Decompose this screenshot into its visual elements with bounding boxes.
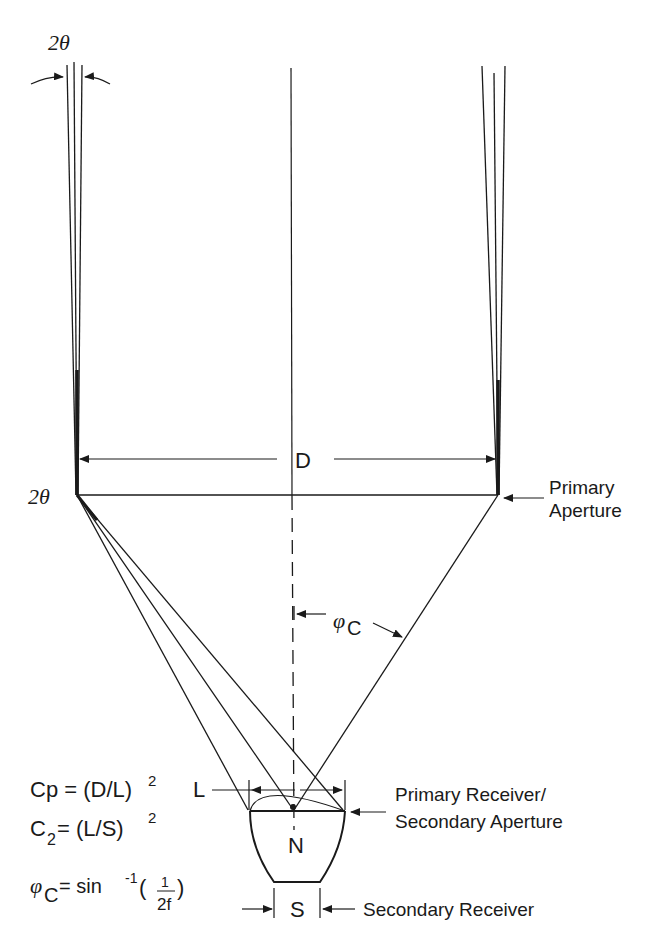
svg-text:2f: 2f — [157, 895, 171, 914]
svg-text:C: C — [44, 884, 58, 906]
equation-phi-c: φ C = sin -1 ( 1 2f ) — [30, 870, 184, 914]
svg-text:Cp = (D/L): Cp = (D/L) — [30, 777, 132, 802]
right-ray-bundle — [482, 66, 505, 495]
S-label: S — [290, 897, 305, 922]
concentrator-diagram: 2θ 2θ D Primary Aperture φ C L N S Prima… — [0, 0, 670, 951]
L-label: L — [193, 777, 205, 802]
N-label: N — [288, 833, 304, 858]
primary-receiver-label-1: Primary Receiver/ — [395, 784, 547, 805]
optical-axis-dashed — [292, 496, 294, 830]
svg-text:(: ( — [139, 875, 147, 900]
svg-text:2: 2 — [47, 831, 56, 848]
svg-text:= sin: = sin — [59, 875, 102, 897]
svg-text:φ: φ — [30, 873, 42, 898]
svg-text:= (L/S): = (L/S) — [57, 816, 124, 841]
phi-c-symbol: φ — [333, 608, 345, 633]
converging-rays — [77, 495, 498, 810]
equation-cp: Cp = (D/L) 2 — [30, 772, 156, 802]
phi-c-subscript: C — [347, 617, 361, 639]
svg-text:C: C — [30, 816, 46, 841]
svg-text:1: 1 — [161, 874, 169, 890]
primary-aperture-label-1: Primary — [549, 477, 615, 498]
svg-text:-1: -1 — [125, 870, 138, 886]
two-theta-left-label: 2θ — [28, 484, 50, 509]
D-label: D — [295, 448, 311, 473]
two-theta-angle-marker — [31, 77, 110, 84]
svg-text:2: 2 — [148, 772, 156, 789]
primary-receiver-label-2: Secondary Aperture — [395, 811, 563, 832]
left-ray-bundle — [67, 62, 82, 495]
optical-axis — [291, 68, 292, 496]
svg-text:): ) — [177, 875, 184, 900]
equation-c2: C 2 = (L/S) 2 — [30, 809, 156, 848]
two-theta-top-label: 2θ — [48, 30, 70, 55]
secondary-receiver-label: Secondary Receiver — [363, 899, 535, 920]
primary-aperture-label-2: Aperture — [549, 500, 622, 521]
svg-text:2: 2 — [148, 809, 156, 826]
